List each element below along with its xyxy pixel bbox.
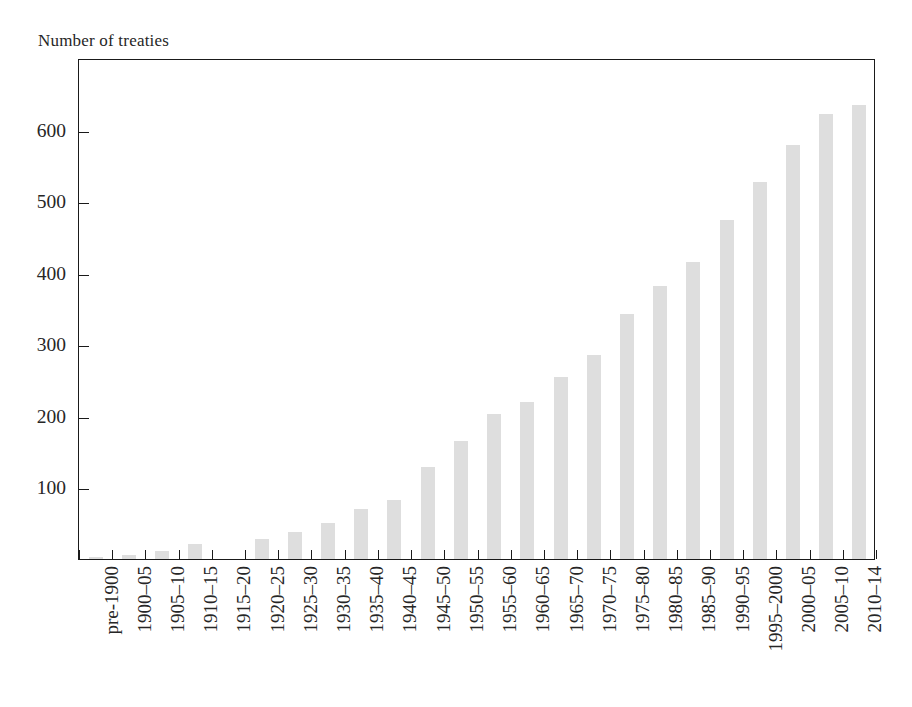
x-axis-tick-label: 1935–40 xyxy=(367,566,386,633)
x-axis-tick-label: 2000–05 xyxy=(799,566,818,633)
x-axis-tick xyxy=(677,550,678,559)
x-axis-tick-label: 1975–80 xyxy=(633,566,652,633)
x-axis-tick xyxy=(444,550,445,559)
bar xyxy=(454,441,468,559)
y-axis-tick-label: 400 xyxy=(37,263,66,285)
x-axis-tick-label: pre-1900 xyxy=(102,566,121,635)
bar xyxy=(554,377,568,559)
x-axis-tick-label: 1910–15 xyxy=(201,566,220,633)
y-axis-tick-label: 100 xyxy=(37,477,66,499)
x-axis-tick-label: 2010–14 xyxy=(865,566,884,633)
x-axis-tick xyxy=(577,550,578,559)
x-axis-tick xyxy=(179,550,180,559)
bar xyxy=(421,467,435,559)
x-axis-tick xyxy=(776,550,777,559)
plot-area xyxy=(79,60,874,559)
x-axis-tick-label: 1945–50 xyxy=(434,566,453,633)
x-axis-tick xyxy=(79,550,80,559)
x-axis-tick xyxy=(378,550,379,559)
bar-series-layer xyxy=(79,60,874,559)
bar xyxy=(155,551,169,559)
bar xyxy=(819,114,833,559)
y-axis-tick-label: 500 xyxy=(37,191,66,213)
x-axis-tick xyxy=(278,550,279,559)
bar xyxy=(520,402,534,559)
x-axis-tick xyxy=(478,550,479,559)
bar xyxy=(587,355,601,559)
y-axis-tick-label: 600 xyxy=(37,120,66,142)
bar xyxy=(387,500,401,559)
bar xyxy=(89,557,103,559)
x-axis-tick-label: 1925–30 xyxy=(301,566,320,633)
x-axis-tick xyxy=(644,550,645,559)
bar xyxy=(852,105,866,559)
x-axis-tick-label: 1920–25 xyxy=(268,566,287,633)
bar xyxy=(753,182,767,559)
x-axis-tick xyxy=(843,550,844,559)
y-axis-tick-label: 300 xyxy=(37,334,66,356)
x-axis-tick xyxy=(311,550,312,559)
y-axis-title: Number of treaties xyxy=(38,31,169,51)
y-axis-tick-label: 200 xyxy=(37,406,66,428)
x-axis-tick-label: 1915–20 xyxy=(234,566,253,633)
x-axis-tick xyxy=(876,550,877,559)
x-axis-tick-label: 1970–75 xyxy=(600,566,619,633)
bar xyxy=(354,509,368,559)
x-axis-tick-label: 2005–10 xyxy=(832,566,851,633)
bar xyxy=(786,145,800,559)
bar xyxy=(686,262,700,559)
x-axis-tick-label: 1985–90 xyxy=(699,566,718,633)
x-axis-tick xyxy=(610,550,611,559)
x-axis-tick-label: 1990–95 xyxy=(733,566,752,633)
x-axis-tick xyxy=(810,550,811,559)
x-axis-tick xyxy=(411,550,412,559)
bar xyxy=(288,532,302,559)
x-axis-tick xyxy=(345,550,346,559)
bar xyxy=(653,286,667,559)
x-axis-tick-label: 1900–05 xyxy=(135,566,154,633)
plot-frame xyxy=(78,59,875,560)
x-axis-tick-label-layer: pre-19001900–051905–101910–151915–201920… xyxy=(78,566,875,707)
bar xyxy=(720,220,734,559)
chart-canvas: Number of treaties 100200300400500600 pr… xyxy=(0,0,912,707)
x-axis-tick-label: 1960–65 xyxy=(533,566,552,633)
bar xyxy=(255,539,269,559)
x-axis-tick xyxy=(212,550,213,559)
x-axis-tick xyxy=(245,550,246,559)
bar xyxy=(487,414,501,559)
x-axis-tick xyxy=(743,550,744,559)
x-axis-tick xyxy=(710,550,711,559)
bar xyxy=(188,544,202,559)
x-axis-tick-label: 1995–2000 xyxy=(766,566,785,652)
x-axis-tick-label: 1930–35 xyxy=(334,566,353,633)
x-axis-tick-label: 1965–70 xyxy=(567,566,586,633)
y-axis-tick-label-layer: 100200300400500600 xyxy=(0,59,78,560)
bar xyxy=(620,314,634,559)
bar xyxy=(122,555,136,559)
x-axis-tick xyxy=(145,550,146,559)
x-axis-tick-label: 1980–85 xyxy=(666,566,685,633)
bar xyxy=(321,523,335,559)
x-axis-tick-label: 1940–45 xyxy=(400,566,419,633)
x-axis-tick xyxy=(112,550,113,559)
x-axis-tick xyxy=(544,550,545,559)
x-axis-tick-label: 1950–55 xyxy=(467,566,486,633)
x-axis-tick-label: 1905–10 xyxy=(168,566,187,633)
x-axis-tick xyxy=(511,550,512,559)
x-axis-tick-label: 1955–60 xyxy=(500,566,519,633)
